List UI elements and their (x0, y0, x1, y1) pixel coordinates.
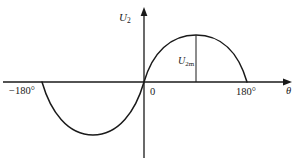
y-axis-label-subscript: 2 (127, 16, 131, 25)
x-axis-label: θ (286, 86, 291, 97)
amplitude-label: U2m (178, 56, 194, 68)
x-tick-label-plus-180: 180° (236, 87, 256, 98)
origin-label: 0 (150, 87, 155, 98)
plot-area (0, 0, 300, 162)
x-tick-label-minus-180: −180° (9, 86, 35, 97)
y-axis-label: U2 (119, 12, 131, 24)
amplitude-label-subscript: 2m (185, 60, 194, 68)
y-axis-arrowhead (141, 7, 148, 16)
sine-wave-figure: U2 θ U2m −180° 0 180° (0, 0, 300, 162)
y-axis-label-symbol: U (119, 11, 127, 23)
